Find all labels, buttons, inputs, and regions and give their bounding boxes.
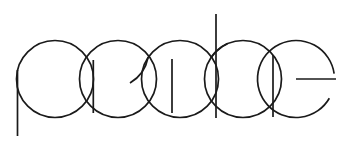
a-bowl-circle [142,41,219,118]
glyph-p [17,41,94,137]
logo-artwork: Overlapping circle monoline logotype [0,0,353,145]
glyph-c [205,14,282,118]
c-inner-arc [211,44,227,58]
logo-canvas: Overlapping circle monoline logotype [0,0,353,145]
glyph-e [258,40,336,117]
p-bowl-circle [17,41,94,118]
glyph-o [80,41,157,118]
o-bowl-circle [80,41,157,118]
